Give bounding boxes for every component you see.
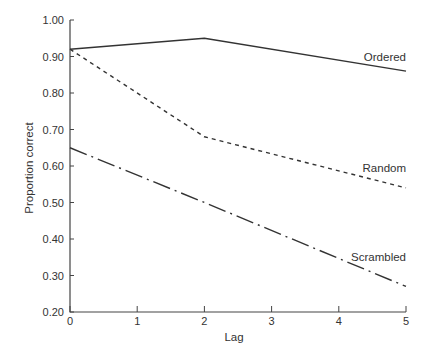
y-tick-label: 0.50 — [43, 197, 64, 209]
x-tick-label: 1 — [134, 315, 140, 327]
y-tick-label: 0.40 — [43, 233, 64, 245]
y-tick-label: 1.00 — [43, 14, 64, 26]
x-tick-label: 5 — [403, 315, 409, 327]
y-axis-ticks: 1.000.900.800.700.600.500.400.300.20 — [43, 14, 74, 318]
series-line-scrambled — [70, 148, 406, 287]
line-chart: 1.000.900.800.700.600.500.400.300.20 012… — [0, 0, 430, 362]
x-tick-label: 3 — [269, 315, 275, 327]
y-tick-label: 0.20 — [43, 306, 64, 318]
y-axis-title: Proportion correct — [23, 121, 35, 213]
x-axis-ticks: 012345 — [67, 306, 409, 327]
series-line-random — [70, 49, 406, 188]
series-lines — [70, 38, 406, 286]
axes — [70, 20, 406, 312]
y-tick-label: 0.90 — [43, 51, 64, 63]
series-label-ordered: Ordered — [364, 51, 406, 63]
series-label-scrambled: Scrambled — [351, 251, 406, 263]
series-line-ordered — [70, 38, 406, 71]
y-tick-label: 0.80 — [43, 87, 64, 99]
y-tick-label: 0.60 — [43, 160, 64, 172]
y-tick-label: 0.30 — [43, 270, 64, 282]
x-tick-label: 2 — [201, 315, 207, 327]
x-axis-title: Lag — [224, 331, 243, 343]
x-tick-label: 0 — [67, 315, 73, 327]
x-tick-label: 4 — [336, 315, 342, 327]
y-tick-label: 0.70 — [43, 124, 64, 136]
series-label-random: Random — [363, 162, 406, 174]
